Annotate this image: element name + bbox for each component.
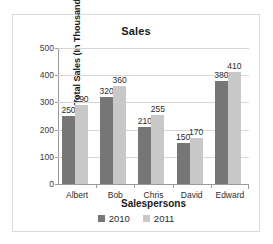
chart-title: Sales — [13, 25, 259, 37]
x-tick-mark — [173, 184, 174, 188]
bar-value-label: 360 — [113, 75, 127, 85]
bar[interactable] — [228, 72, 241, 184]
bar-group: 150170David — [173, 47, 211, 184]
chart-legend: 20102011 — [13, 213, 259, 224]
bar-value-label: 290 — [74, 94, 88, 104]
legend-label: 2010 — [109, 213, 130, 224]
bar[interactable] — [151, 115, 164, 184]
bar-value-label: 320 — [100, 86, 114, 96]
bar[interactable] — [113, 86, 126, 184]
y-tick-label: 100 — [40, 152, 54, 162]
y-tick-label: 400 — [40, 70, 54, 80]
y-tick-label: 0 — [49, 179, 54, 189]
bar[interactable] — [62, 116, 75, 184]
y-tick-mark — [55, 184, 58, 185]
x-tick-mark — [211, 184, 212, 188]
bar-group: 210255Chris — [134, 47, 172, 184]
bar[interactable] — [177, 143, 190, 184]
bar-group: 380410Edward — [211, 47, 249, 184]
legend-label: 2011 — [154, 213, 174, 224]
x-axis-line — [58, 184, 249, 185]
x-axis-title: Salespersons — [58, 198, 249, 209]
y-tick-label: 300 — [40, 97, 54, 107]
bar-group: 250290Albert — [58, 47, 96, 184]
bar[interactable] — [138, 127, 151, 184]
bar-value-label: 170 — [189, 127, 203, 137]
bar-value-label: 255 — [151, 104, 165, 114]
x-tick-mark — [96, 184, 97, 188]
plot-area: 0100200300400500250290Albert320360Bob210… — [58, 48, 249, 185]
bar[interactable] — [75, 105, 88, 184]
bar[interactable] — [100, 97, 113, 184]
x-tick-mark — [134, 184, 135, 188]
y-tick-label: 200 — [40, 125, 54, 135]
bar-value-label: 410 — [227, 61, 241, 71]
bar[interactable] — [215, 81, 228, 184]
legend-swatch-icon — [98, 215, 105, 222]
chart-container: Sales Total Sales (In Thousands) 0100200… — [12, 14, 260, 232]
y-tick-label: 500 — [40, 43, 54, 53]
legend-swatch-icon — [143, 215, 150, 222]
x-tick-mark — [248, 185, 249, 189]
bar-value-label: 210 — [138, 116, 152, 126]
legend-item[interactable]: 2011 — [143, 213, 174, 224]
bar-group: 320360Bob — [96, 47, 134, 184]
bar[interactable] — [190, 138, 203, 184]
bar-value-label: 250 — [61, 105, 75, 115]
legend-item[interactable]: 2010 — [98, 213, 130, 224]
